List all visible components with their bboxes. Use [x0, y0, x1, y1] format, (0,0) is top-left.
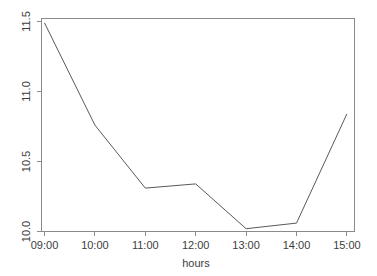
- x-axis-ticks: [45, 232, 347, 237]
- line-chart: 11.5 11.0 10.5 10.0 09:00 10:00 11:00 12…: [0, 0, 377, 276]
- y-axis-label-10-5: 10.5: [20, 151, 32, 172]
- data-series-line: [45, 23, 347, 229]
- x-axis-label-1000: 10:00: [81, 239, 109, 251]
- x-axis-label-1300: 13:00: [232, 239, 260, 251]
- y-axis-label-11-0: 11.0: [20, 81, 32, 102]
- x-axis-label-1100: 11:00: [132, 239, 159, 251]
- chart-canvas: 11.5 11.0 10.5 10.0 09:00 10:00 11:00 12…: [0, 0, 377, 276]
- x-axis-label-1400: 14:00: [283, 239, 311, 251]
- x-axis-label-0900: 09:00: [31, 239, 59, 251]
- y-axis-ticks: [37, 22, 42, 232]
- x-axis-title: hours: [182, 257, 210, 269]
- x-axis-label-1200: 12:00: [182, 239, 210, 251]
- x-axis-label-1500: 15:00: [333, 239, 361, 251]
- y-axis-labels: 11.5 11.0 10.5 10.0: [20, 11, 32, 242]
- y-axis-label-11-5: 11.5: [20, 11, 32, 32]
- x-axis-labels: 09:00 10:00 11:00 12:00 13:00 14:00 15:0…: [31, 239, 361, 251]
